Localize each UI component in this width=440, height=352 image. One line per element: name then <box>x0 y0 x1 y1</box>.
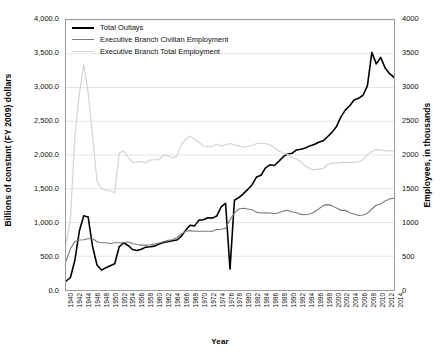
y-axis-left-tick-label: 2,000.0 <box>34 151 59 159</box>
x-axis-tick-label: 1942 <box>77 293 84 307</box>
series-line-0 <box>66 52 394 281</box>
x-axis-tick-label: 1976 <box>229 293 236 307</box>
chart-container: Billions of constant (FY 2009) dollars E… <box>0 0 440 352</box>
x-axis-tick-label: 2012 <box>389 293 396 307</box>
x-axis-tick-label: 1950 <box>113 293 120 307</box>
y-axis-left-tick-label: 2,500.0 <box>34 117 59 125</box>
x-axis-tick-label: 1940 <box>68 293 75 307</box>
y-axis-left-tick-label: 3,000.0 <box>34 83 59 91</box>
x-axis-tick-label: 1948 <box>104 293 111 307</box>
x-axis-tick-label: 1952 <box>122 293 129 307</box>
x-axis-tick-label: 1990 <box>291 293 298 307</box>
x-axis-tick-label: 2006 <box>362 293 369 307</box>
legend: Total OutlaysExecutive Branch Civilian E… <box>72 22 228 57</box>
x-axis-tick-label: 2008 <box>371 293 378 307</box>
x-axis-tick-label: 1970 <box>202 293 209 307</box>
y-axis-left-tick-label: 4,000.0 <box>34 15 59 23</box>
x-axis-tick-label: 1966 <box>184 293 191 307</box>
y-axis-left-tick-label: 0.0 <box>49 287 59 295</box>
x-axis-tick-label: 1964 <box>175 293 182 307</box>
x-axis-tick-label: 1992 <box>300 293 307 307</box>
y-axis-left-tick-label: 1,000.0 <box>34 219 59 227</box>
x-axis-tick-label: 1958 <box>148 293 155 307</box>
legend-item[interactable]: Executive Branch Civilian Employment <box>72 34 228 45</box>
y-axis-right-tick-label: 500 <box>402 253 415 261</box>
legend-swatch-icon <box>72 51 94 52</box>
x-axis-tick-label: 1986 <box>273 293 280 307</box>
y-axis-right-tick-label: 1500 <box>402 185 419 193</box>
x-axis-ticks: 1940194219441946194819501952195419561958… <box>65 293 395 337</box>
y-axis-right-tick-label: 2000 <box>402 151 419 159</box>
x-axis-tick-label: 1962 <box>166 293 173 307</box>
legend-swatch-icon <box>72 39 94 40</box>
y-axis-left-tick-label: 3,500.0 <box>34 49 59 57</box>
series-lines <box>66 20 394 290</box>
x-axis-tick-label: 2014 <box>398 293 405 307</box>
legend-item-label: Executive Branch Total Employment <box>100 47 220 56</box>
y-axis-right-tick-label: 2500 <box>402 117 419 125</box>
series-line-1 <box>66 198 394 261</box>
x-axis-tick-label: 1978 <box>237 293 244 307</box>
y-axis-left-tick-label: 1,500.0 <box>34 185 59 193</box>
y-axis-right-tick-label: 3500 <box>402 49 419 57</box>
x-axis-tick-label: 1946 <box>95 293 102 307</box>
x-axis-tick-label: 2004 <box>353 293 360 307</box>
legend-item-label: Executive Branch Civilian Employment <box>100 35 228 44</box>
x-axis-tick-label: 1988 <box>282 293 289 307</box>
x-axis-tick-label: 1944 <box>86 293 93 307</box>
y-axis-right-ticks: 05001000150020002500300035004000 <box>396 0 426 300</box>
y-axis-left-tick-label: 500.0 <box>40 253 59 261</box>
series-line-2 <box>66 65 394 245</box>
x-axis-tick-label: 1984 <box>264 293 271 307</box>
y-axis-right-tick-label: 4000 <box>402 15 419 23</box>
legend-item[interactable]: Executive Branch Total Employment <box>72 46 228 57</box>
legend-item[interactable]: Total Outlays <box>72 22 228 33</box>
y-axis-left-title-text: Billions of constant (FY 2009) dollars <box>3 74 13 227</box>
plot-area: Total OutlaysExecutive Branch Civilian E… <box>65 19 395 291</box>
y-axis-left-ticks: 0.0500.01,000.01,500.02,000.02,500.03,00… <box>18 0 62 300</box>
x-axis-tick-label: 1994 <box>309 293 316 307</box>
legend-item-label: Total Outlays <box>100 23 143 32</box>
y-axis-right-tick-label: 1000 <box>402 219 419 227</box>
x-axis-tick-label: 1956 <box>139 293 146 307</box>
x-axis-tick-label: 2000 <box>336 293 343 307</box>
legend-swatch-icon <box>72 27 94 29</box>
x-axis-tick-label: 1954 <box>130 293 137 307</box>
x-axis-tick-label: 1980 <box>246 293 253 307</box>
x-axis-tick-label: 2002 <box>344 293 351 307</box>
x-axis-tick-label: 1982 <box>255 293 262 307</box>
x-axis-title: Year <box>0 337 440 346</box>
x-axis-tick-label: 1996 <box>318 293 325 307</box>
x-axis-tick-label: 1998 <box>327 293 334 307</box>
x-axis-tick-label: 1968 <box>193 293 200 307</box>
y-axis-left-title: Billions of constant (FY 2009) dollars <box>0 0 16 300</box>
y-axis-right-tick-label: 3000 <box>402 83 419 91</box>
x-axis-tick-label: 1972 <box>211 293 218 307</box>
x-axis-tick-label: 1974 <box>220 293 227 307</box>
x-axis-tick-label: 1960 <box>157 293 164 307</box>
x-axis-tick-label: 2010 <box>380 293 387 307</box>
